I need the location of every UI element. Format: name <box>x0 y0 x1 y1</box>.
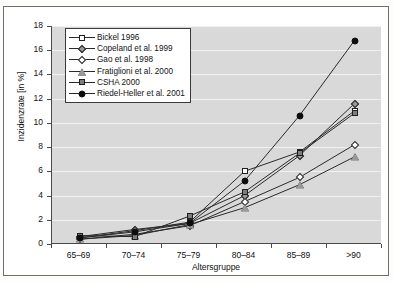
legend-marker-icon <box>69 32 95 43</box>
legend-item: Bickel 1996 <box>69 32 185 43</box>
legend-item: CSHA 2000 <box>69 77 185 88</box>
legend-item-label: Bickel 1996 <box>95 33 139 42</box>
data-point-marker <box>297 150 303 156</box>
y-axis-tick-label: 8 <box>17 142 43 151</box>
legend-item: Fratiglioni et al. 2000 <box>69 66 185 77</box>
data-point-marker <box>131 228 138 235</box>
y-axis-tick-label: 12 <box>17 94 43 103</box>
legend-item-label: CSHA 2000 <box>95 78 140 87</box>
x-axis-tick-label: >90 <box>324 251 384 260</box>
y-axis-tick-mark <box>47 123 51 124</box>
y-axis-tick-label: 16 <box>17 45 43 54</box>
x-axis-tick-label: 75–79 <box>159 251 219 260</box>
y-axis-tick-label: 0 <box>17 239 43 248</box>
series-line <box>80 104 355 237</box>
y-axis-tick-mark <box>47 99 51 100</box>
legend-item: Copeland et al. 1999 <box>69 43 185 54</box>
data-point-marker <box>186 220 193 227</box>
y-axis-tick-mark <box>47 147 51 148</box>
data-point-marker <box>351 153 359 160</box>
x-axis-tick-label: 65–69 <box>49 251 109 260</box>
x-axis-tick-label: 70–74 <box>104 251 164 260</box>
x-axis-title: Altersgruppe <box>51 263 381 272</box>
y-axis-tick-mark <box>47 50 51 51</box>
legend-marker-icon <box>69 77 95 88</box>
y-axis-tick-label: 6 <box>17 166 43 175</box>
y-axis-tick-mark <box>47 26 51 27</box>
legend-marker-icon <box>69 43 95 54</box>
y-axis-tick-mark <box>47 171 51 172</box>
x-axis-tick-mark <box>326 244 327 248</box>
x-axis-tick-mark <box>216 244 217 248</box>
data-point-marker <box>351 37 358 44</box>
series-line <box>80 111 355 238</box>
legend-item-label: Copeland et al. 1999 <box>95 44 173 53</box>
x-axis-tick-mark <box>161 244 162 248</box>
x-axis-tick-label: 85–89 <box>269 251 329 260</box>
x-axis-tick-mark <box>106 244 107 248</box>
legend-marker-icon <box>69 88 95 99</box>
legend-item: Riedel-Heller et al. 2001 <box>69 88 185 99</box>
x-axis-tick-mark <box>271 244 272 248</box>
x-axis-tick-mark <box>381 244 382 248</box>
y-axis-tick-label: 4 <box>17 191 43 200</box>
y-axis-tick-mark <box>47 74 51 75</box>
x-axis-tick-mark <box>51 244 52 248</box>
series-line <box>80 113 355 237</box>
legend-item-label: Fratiglioni et al. 2000 <box>95 67 173 76</box>
data-point-marker <box>242 189 248 195</box>
y-axis-tick-label: 2 <box>17 215 43 224</box>
legend-item: Gao et al. 1998 <box>69 54 185 65</box>
data-point-marker <box>241 204 249 211</box>
data-point-marker <box>76 234 83 241</box>
legend-marker-icon <box>69 54 95 65</box>
y-axis-tick-label: 10 <box>17 118 43 127</box>
y-axis-tick-mark <box>47 220 51 221</box>
chart-legend: Bickel 1996Copeland et al. 1999Gao et al… <box>65 28 191 103</box>
y-axis-tick-label: 18 <box>17 21 43 30</box>
data-point-marker <box>241 178 248 185</box>
y-axis-tick-label: 14 <box>17 69 43 78</box>
figure-frame: Inzidenzrate [in %] 024681012141618 65–6… <box>3 6 389 276</box>
x-axis-tick-label: 80–84 <box>214 251 274 260</box>
series-line <box>80 145 355 240</box>
legend-item-label: Gao et al. 1998 <box>95 55 153 64</box>
data-point-marker <box>352 110 358 116</box>
data-point-marker <box>242 168 248 174</box>
data-point-marker <box>296 112 303 119</box>
data-point-marker <box>296 181 304 188</box>
y-axis-tick-mark <box>47 196 51 197</box>
figure-page: Inzidenzrate [in %] 024681012141618 65–6… <box>0 0 394 281</box>
legend-item-label: Riedel-Heller et al. 2001 <box>95 89 185 98</box>
legend-marker-icon <box>69 66 95 77</box>
data-point-marker <box>187 213 193 219</box>
